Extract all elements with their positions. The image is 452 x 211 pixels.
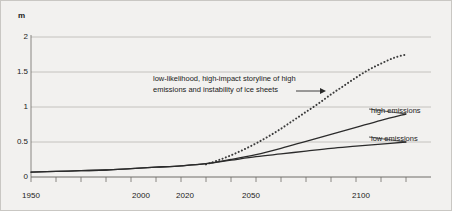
axis-lines <box>31 35 431 177</box>
plot-area <box>1 1 452 211</box>
gridlines <box>31 37 431 142</box>
series-path-1 <box>31 114 406 172</box>
series-path-0 <box>206 55 406 165</box>
sea-level-rise-chart: m 2 1.5 1 0.5 0 1950 2000 2020 2050 2100… <box>0 0 452 211</box>
series-path-2 <box>31 142 406 172</box>
x-axis-ticks <box>31 177 406 182</box>
annotation-arrow <box>296 88 326 94</box>
